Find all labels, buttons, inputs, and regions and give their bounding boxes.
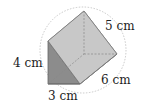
label-base: 3 cm — [48, 90, 78, 102]
label-length: 6 cm — [101, 74, 131, 86]
label-hypotenuse: 5 cm — [105, 20, 135, 32]
label-height: 4 cm — [13, 57, 43, 69]
